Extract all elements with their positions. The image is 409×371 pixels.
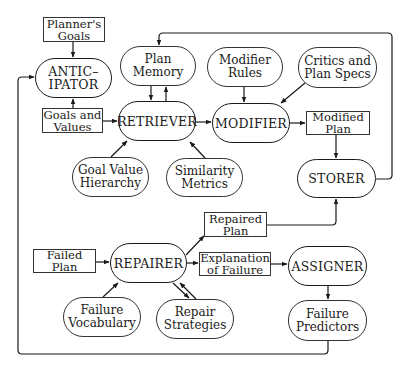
anticipator-label: ANTIC– IPATOR xyxy=(48,65,98,91)
anticipator-node: ANTIC– IPATOR xyxy=(35,58,112,98)
repair-strategies-label: Repair Strategies xyxy=(164,306,227,332)
similarity-metrics-node: Similarity Metrics xyxy=(166,158,243,197)
retriever-label: RETRIEVER xyxy=(117,115,197,128)
repaired-plan-box: Repaired Plan xyxy=(204,212,267,237)
failed-plan-box: Failed Plan xyxy=(33,249,96,273)
repair-strategies-node: Repair Strategies xyxy=(156,299,234,339)
assigner-node: ASSIGNER xyxy=(288,246,367,286)
modified-plan-box: Modified Plan xyxy=(306,111,370,135)
critics-and-plan-specs-label: Critics and Plan Specs xyxy=(304,55,371,81)
planners-goals-box: Planner's Goals xyxy=(43,17,105,42)
repaired-plan-label: Repaired Plan xyxy=(209,213,262,237)
failure-predictors-node: Failure Predictors xyxy=(288,300,367,341)
case-based-planner-diagram: ANTIC– IPATOR RETRIEVER MODIFIER STORER … xyxy=(0,0,409,371)
similarity-metrics-label: Similarity Metrics xyxy=(175,165,234,191)
repairer-node: REPAIRER xyxy=(110,243,187,283)
modifier-rules-node: Modifier Rules xyxy=(207,47,283,87)
failed-plan-label: Failed Plan xyxy=(47,249,83,273)
failure-predictors-label: Failure Predictors xyxy=(296,308,359,334)
plan-memory-node: Plan Memory xyxy=(120,46,196,86)
goal-value-hierarchy-label: Goal Value Hierarchy xyxy=(78,164,143,190)
assigner-label: ASSIGNER xyxy=(292,260,364,273)
explanation-of-failure-label: Explanation of Failure xyxy=(200,252,270,276)
storer-node: STORER xyxy=(297,159,376,198)
modifier-rules-label: Modifier Rules xyxy=(219,54,271,80)
goals-and-values-label: Goals and Values xyxy=(44,109,102,133)
edge-similarity-metrics-to-retriever xyxy=(190,142,205,158)
goal-value-hierarchy-node: Goal Value Hierarchy xyxy=(72,157,149,197)
explanation-of-failure-box: Explanation of Failure xyxy=(199,252,271,276)
planners-goals-label: Planner's Goals xyxy=(47,18,101,42)
edge-repaired-plan-to-storer xyxy=(267,199,336,225)
failure-vocabulary-node: Failure Vocabulary xyxy=(63,297,141,337)
edge-critics-to-modifier xyxy=(281,83,305,103)
edge-failure-vocabulary-to-repairer xyxy=(103,283,118,297)
modified-plan-label: Modified Plan xyxy=(312,111,364,135)
modifier-node: MODIFIER xyxy=(212,103,290,143)
failure-vocabulary-label: Failure Vocabulary xyxy=(68,304,136,330)
critics-and-plan-specs-node: Critics and Plan Specs xyxy=(298,47,377,88)
plan-memory-label: Plan Memory xyxy=(133,53,184,79)
retriever-node: RETRIEVER xyxy=(118,101,196,141)
modifier-label: MODIFIER xyxy=(215,117,287,130)
edge-repairer-to-repair-strategies xyxy=(173,283,189,298)
storer-label: STORER xyxy=(308,172,364,185)
repairer-label: REPAIRER xyxy=(114,257,183,270)
edge-goal-value-hierarchy-to-retriever xyxy=(111,141,127,157)
goals-and-values-box: Goals and Values xyxy=(42,108,103,133)
